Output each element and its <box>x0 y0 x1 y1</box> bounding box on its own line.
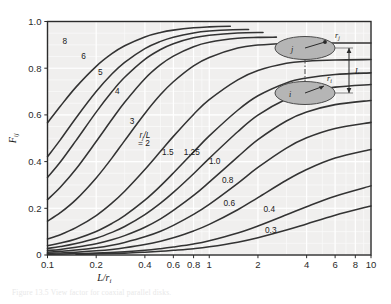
x-axis-title: L/ri <box>96 272 111 285</box>
parameter-legend: rj/L= 2 <box>138 130 151 148</box>
y-tick-label-1: 0.2 <box>28 203 41 214</box>
curve-label-8: 8 <box>63 36 68 46</box>
curve-label-5: 5 <box>98 67 103 77</box>
x-tick-label-0: 0.1 <box>41 259 54 270</box>
figure-caption: Figure 13.5 View factor for coaxial para… <box>12 288 382 297</box>
curve-label-6: 6 <box>81 51 86 61</box>
x-tick-label-2: 0.4 <box>138 259 151 270</box>
curve-label-1-5: 1.5 <box>162 147 174 157</box>
x-tick-label-5: 1 <box>207 259 212 270</box>
x-tick-label-6: 2 <box>255 259 260 270</box>
x-tick-label-4: 0.8 <box>187 259 200 270</box>
figure-container: 0.10.20.40.60.81246810 00.20.40.60.81.0 … <box>0 0 391 304</box>
y-tick-label-0: 0 <box>36 249 41 260</box>
x-tick-label-1: 0.2 <box>90 259 103 270</box>
curve-label-0-3: 0.3 <box>265 225 277 235</box>
inset-radius-j-point <box>323 40 327 44</box>
x-tick-label-3: 0.6 <box>167 259 180 270</box>
y-tick-label-4: 0.8 <box>28 63 41 74</box>
inset-disk-i-label: i <box>289 90 291 99</box>
param-legend-value: = 2 <box>138 138 150 148</box>
x-tick-labels: 0.10.20.40.60.81246810 <box>41 259 376 270</box>
curve-label-0-4: 0.4 <box>263 204 275 214</box>
x-tick-label-9: 8 <box>353 259 358 270</box>
y-tick-label-3: 0.6 <box>28 109 41 120</box>
x-tick-label-7: 4 <box>304 259 309 270</box>
view-factor-chart: 0.10.20.40.60.81246810 00.20.40.60.81.0 … <box>0 0 391 304</box>
curve-label-0-6: 0.6 <box>224 198 236 208</box>
inset-separation-label: L <box>354 67 360 76</box>
curve-label-4: 4 <box>115 86 120 96</box>
y-tick-label-5: 1.0 <box>28 16 41 27</box>
y-tick-label-2: 0.4 <box>28 156 41 167</box>
x-tick-label-8: 6 <box>332 259 337 270</box>
curve-label-0-8: 0.8 <box>222 175 234 185</box>
curve-label-1-0: 1.0 <box>209 156 221 166</box>
curve-label-3: 3 <box>130 116 135 126</box>
y-tick-labels: 00.20.40.60.81.0 <box>28 16 41 261</box>
x-tick-label-10: 10 <box>366 259 377 270</box>
y-axis-title: Fij <box>7 133 20 144</box>
curve-label-1-25: 1.25 <box>184 147 201 157</box>
chart-svg: 0.10.20.40.60.81246810 00.20.40.60.81.0 … <box>0 0 391 304</box>
